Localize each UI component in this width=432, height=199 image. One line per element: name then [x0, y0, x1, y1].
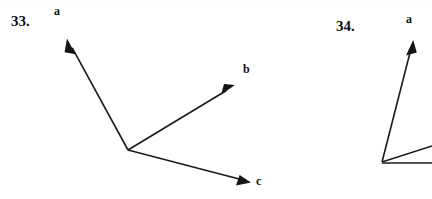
vector-diagram-34 — [300, 0, 432, 199]
vector-label-c-33: c — [256, 175, 261, 187]
vector-c-33 — [128, 150, 251, 186]
vector-diagram-33 — [0, 0, 300, 199]
vector-a-34-arrowhead — [406, 40, 417, 55]
worksheet-page: 33. a b c 34. — [0, 0, 432, 199]
vector-c-33-arrowhead — [236, 175, 251, 186]
vector-b-33-arrowhead — [221, 84, 235, 95]
vector-diagonal-34-shaft — [382, 146, 432, 162]
vector-a-34-shaft — [382, 51, 411, 162]
vector-a-33-shaft — [72, 48, 128, 150]
vector-b-33 — [128, 84, 235, 150]
vector-a-33 — [65, 39, 128, 151]
vector-c-33-shaft — [128, 150, 241, 180]
vector-a-33-arrowhead — [65, 39, 76, 55]
vector-figure-33: 33. a b c — [0, 0, 300, 199]
vector-label-a-33: a — [54, 5, 60, 17]
vector-label-a-34: a — [406, 13, 412, 25]
vector-b-33-shaft — [128, 91, 226, 150]
vector-figure-34: 34. a — [300, 0, 432, 199]
vector-a-34 — [382, 40, 417, 162]
vector-label-b-33: b — [243, 63, 250, 75]
